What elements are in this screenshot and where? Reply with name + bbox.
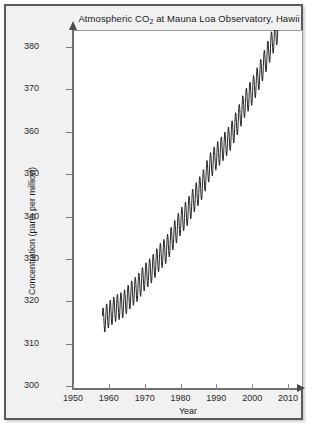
y-tick-label-370: 370 [5,83,39,93]
chart-title: Atmospheric CO2 at Mauna Loa Observatory… [73,13,305,24]
x-tick-label-2000: 2000 [232,393,272,403]
x-tick-label-1970: 1970 [125,393,165,403]
y-tick-370 [66,89,73,90]
y-axis-arrow-icon [69,21,77,30]
y-tick-340 [66,217,73,218]
x-tick-label-1950: 1950 [53,393,93,403]
y-tick-380 [66,47,73,48]
data-series-keeling-curve [73,30,303,389]
chart-title-subscript: 2 [149,18,153,25]
y-tick-label-310: 310 [5,338,39,348]
y-axis-label: Concentration (parts per million) [27,131,37,331]
x-tick-label-1980: 1980 [161,393,201,403]
figure-container: Atmospheric CO2 at Mauna Loa Observatory… [0,0,319,435]
y-tick-330 [66,259,73,260]
y-tick-360 [66,132,73,133]
co2-line-path [102,30,278,332]
x-tick-label-1990: 1990 [196,393,236,403]
y-tick-label-300: 300 [5,380,39,390]
x-axis-label: Year [73,406,303,416]
x-tick-label-1960: 1960 [89,393,129,403]
chart-title-prefix: Atmospheric CO [78,13,149,24]
y-tick-310 [66,344,73,345]
figure-frame: Atmospheric CO2 at Mauna Loa Observatory… [4,4,303,420]
x-tick-label-2010: 2010 [268,393,308,403]
y-tick-320 [66,301,73,302]
y-tick-label-380: 380 [5,41,39,51]
y-tick-300 [66,386,73,387]
chart-title-suffix: at Mauna Loa Observatory, Hawii [153,13,299,24]
y-tick-350 [66,174,73,175]
